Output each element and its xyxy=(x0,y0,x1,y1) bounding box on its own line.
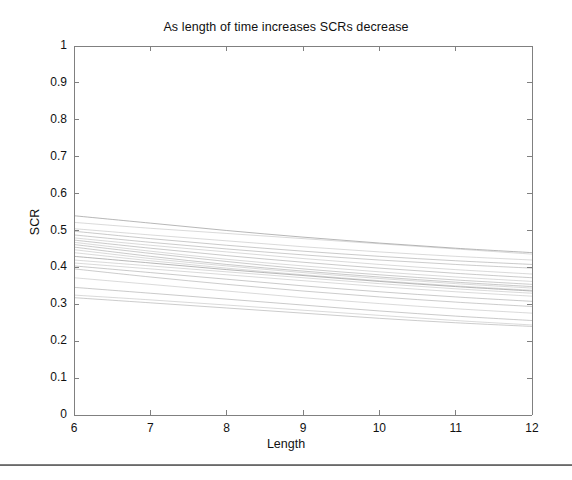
y-tick-label: 0.2 xyxy=(27,333,67,347)
y-tick-label: 0.9 xyxy=(27,75,67,89)
x-tick-label: 7 xyxy=(135,421,165,435)
x-tick-label: 9 xyxy=(288,421,318,435)
data-line xyxy=(74,295,532,325)
y-tick-label: 0.1 xyxy=(27,370,67,384)
figure-container: As length of time increases SCRs decreas… xyxy=(0,0,572,480)
x-tick-label: 8 xyxy=(212,421,242,435)
y-tick-label: 0 xyxy=(27,407,67,421)
data-line xyxy=(74,298,532,327)
y-tick-label: 0.3 xyxy=(27,296,67,310)
page-divider-rule xyxy=(0,464,572,466)
x-tick-label: 11 xyxy=(441,421,471,435)
x-axis-label: Length xyxy=(0,437,572,451)
y-tick-label: 0.5 xyxy=(27,223,67,237)
y-tick-label: 0.8 xyxy=(27,112,67,126)
y-tick-label: 1 xyxy=(27,38,67,52)
data-line xyxy=(74,278,532,313)
axes-box xyxy=(74,46,532,415)
x-tick-label: 10 xyxy=(364,421,394,435)
plot-canvas xyxy=(0,0,572,480)
data-line xyxy=(74,231,532,264)
y-tick-label: 0.6 xyxy=(27,186,67,200)
y-tick-label: 0.7 xyxy=(27,149,67,163)
data-line-group xyxy=(74,216,532,327)
x-tick-label: 12 xyxy=(517,421,547,435)
x-tick-label: 6 xyxy=(59,421,89,435)
y-tick-label: 0.4 xyxy=(27,259,67,273)
